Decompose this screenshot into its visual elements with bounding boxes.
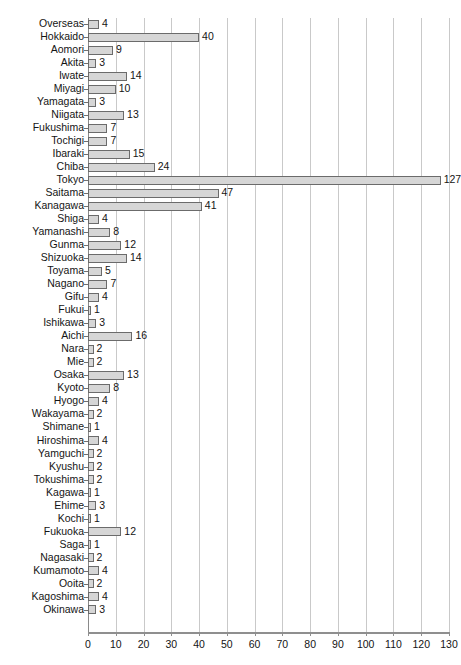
bar bbox=[88, 527, 121, 536]
category-label: Ooita bbox=[0, 577, 84, 590]
axis-tick-label-90: 90 bbox=[332, 638, 344, 650]
bar bbox=[88, 85, 116, 94]
category-label: Hokkaido bbox=[0, 30, 84, 43]
category-label: Kochi bbox=[0, 512, 84, 525]
bar-value-label: 1 bbox=[94, 486, 100, 499]
bar-value-label: 1 bbox=[94, 420, 100, 433]
category-label: Niigata bbox=[0, 108, 84, 121]
bar bbox=[88, 189, 219, 198]
category-label: Yamanashi bbox=[0, 225, 84, 238]
bar bbox=[88, 215, 99, 224]
axis-tick-70 bbox=[282, 632, 283, 636]
bar-value-label: 14 bbox=[130, 251, 142, 264]
axis-tick-20 bbox=[144, 632, 145, 636]
axis-tick-label-70: 70 bbox=[277, 638, 289, 650]
category-label: Fukushima bbox=[0, 121, 84, 134]
bar-value-label: 2 bbox=[97, 577, 103, 590]
bar-value-label: 3 bbox=[99, 95, 105, 108]
bar bbox=[88, 540, 91, 549]
category-label: Iwate bbox=[0, 69, 84, 82]
axis-tick-label-120: 120 bbox=[412, 638, 430, 650]
axis-tick-10 bbox=[116, 632, 117, 636]
bar-value-label: 2 bbox=[97, 355, 103, 368]
bar-value-label: 4 bbox=[102, 590, 108, 603]
bar-value-label: 10 bbox=[119, 82, 131, 95]
axis-tick-30 bbox=[171, 632, 172, 636]
bar bbox=[88, 98, 96, 107]
bar bbox=[88, 436, 99, 445]
category-label: Kumamoto bbox=[0, 564, 84, 577]
axis-tick-label-60: 60 bbox=[249, 638, 261, 650]
category-label: Wakayama bbox=[0, 407, 84, 420]
bar bbox=[88, 124, 107, 133]
bar bbox=[88, 371, 124, 380]
bar-value-label: 8 bbox=[113, 381, 119, 394]
category-label: Kagoshima bbox=[0, 590, 84, 603]
axis-tick-label-100: 100 bbox=[357, 638, 375, 650]
bar-value-label: 14 bbox=[130, 69, 142, 82]
bar-value-label: 9 bbox=[116, 43, 122, 56]
bar bbox=[88, 462, 94, 471]
bar bbox=[88, 111, 124, 120]
category-label: Kagawa bbox=[0, 486, 84, 499]
category-label: Hiroshima bbox=[0, 434, 84, 447]
category-label: Ehime bbox=[0, 499, 84, 512]
axis-tick-110 bbox=[393, 632, 394, 636]
bar-value-label: 3 bbox=[99, 499, 105, 512]
bar bbox=[88, 488, 91, 497]
bar-value-label: 4 bbox=[102, 290, 108, 303]
bar-value-label: 13 bbox=[127, 108, 139, 121]
category-label: Shimane bbox=[0, 420, 84, 433]
bar-value-label: 2 bbox=[97, 460, 103, 473]
bar-value-label: 24 bbox=[158, 160, 170, 173]
bar bbox=[88, 592, 99, 601]
axis-tick-60 bbox=[255, 632, 256, 636]
category-label: Kanagawa bbox=[0, 199, 84, 212]
bar bbox=[88, 306, 91, 315]
bar-value-label: 4 bbox=[102, 564, 108, 577]
bar bbox=[88, 475, 94, 484]
bar bbox=[88, 46, 113, 55]
chart-rows: Overseas4Hokkaido40Aomori9Akita3Iwate14M… bbox=[0, 18, 452, 617]
bar bbox=[88, 72, 127, 81]
bar bbox=[88, 553, 94, 562]
bar bbox=[88, 176, 441, 185]
category-label: Okinawa bbox=[0, 603, 84, 616]
axis-tick-0 bbox=[88, 632, 89, 636]
x-axis-ticks: 0102030405060708090100110120130 bbox=[0, 632, 452, 662]
category-label: Tokushima bbox=[0, 473, 84, 486]
category-label: Tokyo bbox=[0, 173, 84, 186]
axis-tick-100 bbox=[366, 632, 367, 636]
bar bbox=[88, 397, 99, 406]
category-label: Tochigi bbox=[0, 134, 84, 147]
bar-value-label: 16 bbox=[135, 329, 147, 342]
bar bbox=[88, 254, 127, 263]
category-label: Shiga bbox=[0, 212, 84, 225]
category-label: Gunma bbox=[0, 238, 84, 251]
bar bbox=[88, 501, 96, 510]
bar bbox=[88, 267, 102, 276]
bar bbox=[88, 202, 202, 211]
bar-value-label: 4 bbox=[102, 212, 108, 225]
axis-tick-40 bbox=[199, 632, 200, 636]
category-label: Miyagi bbox=[0, 82, 84, 95]
category-label: Saga bbox=[0, 538, 84, 551]
bar-value-label: 8 bbox=[113, 225, 119, 238]
axis-tick-label-40: 40 bbox=[193, 638, 205, 650]
bar bbox=[88, 410, 94, 419]
bar bbox=[88, 228, 110, 237]
bar bbox=[88, 384, 110, 393]
bar bbox=[88, 605, 96, 614]
category-label: Nagasaki bbox=[0, 551, 84, 564]
bar bbox=[88, 332, 132, 341]
bar-value-label: 1 bbox=[94, 303, 100, 316]
bar bbox=[88, 293, 99, 302]
bar-value-label: 7 bbox=[110, 134, 116, 147]
category-label: Hyogo bbox=[0, 394, 84, 407]
bar bbox=[88, 150, 130, 159]
category-label: Akita bbox=[0, 56, 84, 69]
axis-tick-label-20: 20 bbox=[138, 638, 150, 650]
bar-value-label: 1 bbox=[94, 538, 100, 551]
bar-value-label: 4 bbox=[102, 394, 108, 407]
